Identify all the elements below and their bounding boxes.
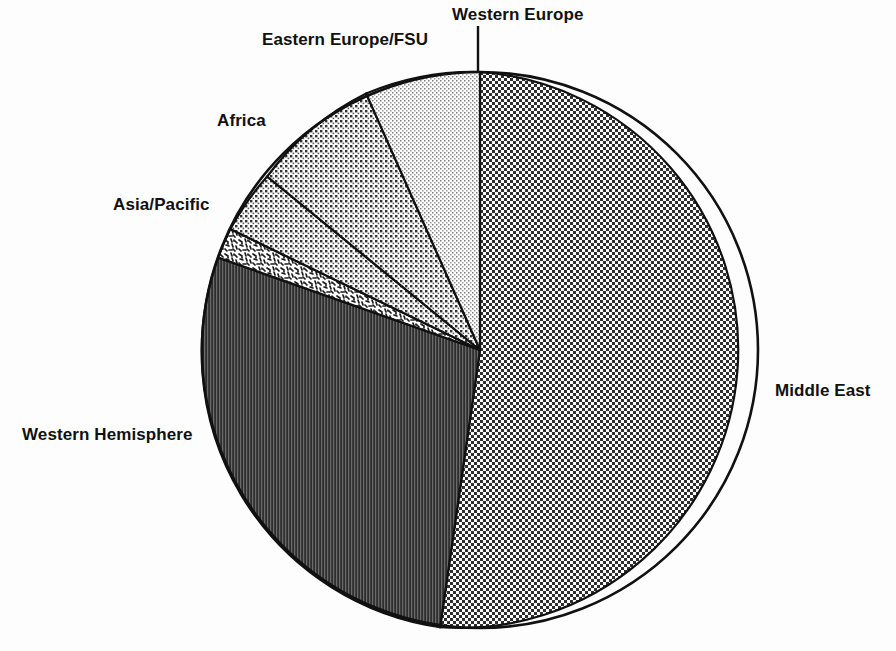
pie-label-western-europe: Western Europe — [452, 6, 583, 25]
pie-label-africa: Africa — [217, 112, 266, 131]
pie-slice-middle-east[interactable] — [440, 72, 738, 628]
pie-label-asia-pacific: Asia/Pacific — [113, 196, 210, 215]
pie-chart-page: Western Europe Eastern Europe/FSU Africa… — [0, 0, 896, 651]
pie-chart-figure — [0, 0, 896, 651]
pie-label-middle-east: Middle East — [775, 382, 871, 401]
pie-label-western-hemisphere: Western Hemisphere — [22, 426, 193, 445]
pie-label-eastern-europe-fsu: Eastern Europe/FSU — [262, 31, 428, 50]
